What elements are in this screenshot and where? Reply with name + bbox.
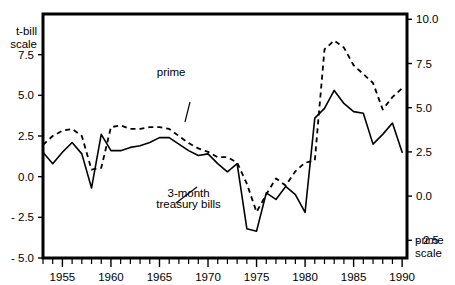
series-lines bbox=[43, 41, 402, 232]
x-tick-label: 1975 bbox=[244, 271, 270, 283]
x-tick-label: 1990 bbox=[389, 271, 415, 283]
chart-container: t-bill scale prime scale 7.55.02.50.0- 2… bbox=[0, 0, 455, 285]
right-axis-title-line2: scale bbox=[415, 247, 442, 259]
plot-area-frame bbox=[43, 14, 407, 258]
right-tick-label: 5.0 bbox=[416, 102, 432, 114]
x-tick-label: 1970 bbox=[195, 271, 221, 283]
right-tick-label: 0.0 bbox=[416, 190, 432, 202]
x-tick-label: 1965 bbox=[147, 271, 173, 283]
x-tick-label: 1955 bbox=[50, 271, 76, 283]
left-tick-label: 5.0 bbox=[18, 89, 34, 101]
left-axis-title-line1: t-bill bbox=[16, 25, 37, 37]
right-axis-ticks: 10.07.55.02.50.0- 2.5 bbox=[407, 13, 439, 246]
x-tick-label: 1980 bbox=[292, 271, 318, 283]
x-tick-label: 1985 bbox=[341, 271, 367, 283]
right-tick-label: 7.5 bbox=[416, 58, 432, 70]
chart-annotation-3: treasury bills bbox=[156, 198, 221, 210]
right-tick-label: 2.5 bbox=[416, 146, 432, 158]
x-tick-label: 1960 bbox=[98, 271, 124, 283]
economic-rates-line-chart: t-bill scale prime scale 7.55.02.50.0- 2… bbox=[0, 0, 455, 285]
series-line-prime bbox=[43, 41, 402, 213]
right-tick-label: 10.0 bbox=[416, 13, 438, 25]
x-axis-labels: 19551960196519701975198019851990 bbox=[50, 271, 415, 283]
series-line-3-month-treasury-bills bbox=[43, 90, 402, 231]
left-tick-label: - 2.5 bbox=[11, 211, 34, 223]
left-tick-label: 2.5 bbox=[18, 130, 34, 142]
left-axis-ticks: 7.55.02.50.0- 2.5- 5.0 bbox=[11, 49, 43, 264]
left-tick-label: 7.5 bbox=[18, 49, 34, 61]
left-tick-label: 0.0 bbox=[18, 171, 34, 183]
right-tick-label: - 2.5 bbox=[416, 234, 439, 246]
chart-annotation-1: prime bbox=[157, 66, 186, 78]
left-tick-label: - 5.0 bbox=[11, 252, 34, 264]
prime-leader-line bbox=[185, 102, 190, 122]
